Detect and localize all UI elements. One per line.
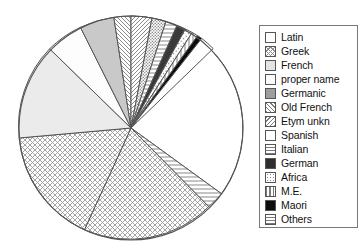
- legend-label: M.E.: [281, 186, 302, 197]
- swatch-dots-dense-icon: [265, 130, 276, 141]
- swatch-solid-gray-icon: [265, 88, 276, 99]
- swatch-solid-white-icon: [265, 74, 276, 85]
- legend-item-middle-english[interactable]: M.E.: [265, 184, 357, 198]
- legend-item-latin[interactable]: Latin: [265, 30, 357, 44]
- swatch-cross-hatch-icon: [265, 46, 276, 57]
- swatch-horiz-lines-icon: [265, 144, 276, 155]
- legend-item-german[interactable]: German: [265, 156, 357, 170]
- legend-item-spanish[interactable]: Spanish: [265, 128, 357, 142]
- pie-chart-figure: Latin Greek French proper name Germanic …: [0, 0, 364, 251]
- legend-item-proper-name[interactable]: proper name: [265, 72, 357, 86]
- legend-label: Maori: [281, 200, 307, 211]
- legend-label: Italian: [281, 144, 308, 155]
- chart-legend: Latin Greek French proper name Germanic …: [259, 25, 358, 228]
- swatch-diag-back-icon: [265, 102, 276, 113]
- legend-label: proper name: [281, 74, 339, 85]
- legend-label: Germanic: [281, 88, 326, 99]
- swatch-vert-lines-icon: [265, 186, 276, 197]
- swatch-solid-white-icon: [265, 32, 276, 43]
- legend-item-greek[interactable]: Greek: [265, 44, 357, 58]
- legend-item-maori[interactable]: Maori: [265, 198, 357, 212]
- swatch-solid-black-icon: [265, 200, 276, 211]
- legend-item-africa[interactable]: Africa: [265, 170, 357, 184]
- legend-item-others[interactable]: Others: [265, 212, 357, 226]
- swatch-solid-light-icon: [265, 60, 276, 71]
- legend-label: Others: [281, 214, 312, 225]
- swatch-solid-dark-icon: [265, 158, 276, 169]
- legend-label: Etym unkn: [281, 116, 330, 127]
- legend-label: German: [281, 158, 318, 169]
- legend-label: French: [281, 60, 313, 71]
- legend-label: Greek: [281, 46, 309, 57]
- legend-label: Africa: [281, 172, 307, 183]
- pie-chart-canvas: [0, 0, 260, 251]
- legend-item-italian[interactable]: Italian: [265, 142, 357, 156]
- swatch-diag-fwd-icon: [265, 116, 276, 127]
- swatch-dots-sparse-icon: [265, 172, 276, 183]
- legend-label: Latin: [281, 32, 303, 43]
- swatch-horiz-lines-icon: [265, 214, 276, 225]
- legend-item-old-french[interactable]: Old French: [265, 100, 357, 114]
- legend-item-etym-unkn[interactable]: Etym unkn: [265, 114, 357, 128]
- legend-label: Spanish: [281, 130, 318, 141]
- legend-item-french[interactable]: French: [265, 58, 357, 72]
- legend-label: Old French: [281, 102, 332, 113]
- legend-item-germanic[interactable]: Germanic: [265, 86, 357, 100]
